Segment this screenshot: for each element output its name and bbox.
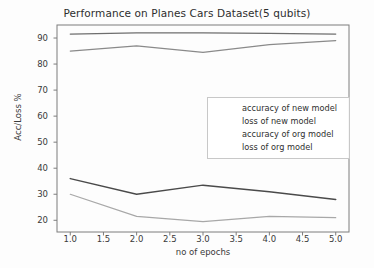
legend-item-label: accuracy of org model — [242, 130, 334, 138]
series-line — [70, 41, 335, 53]
legend-item-label: loss of org model — [242, 143, 312, 151]
legend-item-label: loss of new model — [242, 117, 316, 125]
series-line — [70, 179, 335, 200]
legend-item-label: accuracy of new model — [242, 104, 337, 112]
series-line — [70, 194, 335, 221]
legend-item: accuracy of new model — [212, 102, 344, 115]
series-line — [70, 33, 335, 34]
legend-item: loss of org model — [212, 141, 344, 154]
legend-item: accuracy of org model — [212, 128, 344, 141]
chart-legend: accuracy of new model loss of new model … — [207, 97, 350, 159]
figure-canvas: Performance on Planes Cars Dataset(5 qub… — [0, 0, 374, 268]
legend-item: loss of new model — [212, 115, 344, 128]
